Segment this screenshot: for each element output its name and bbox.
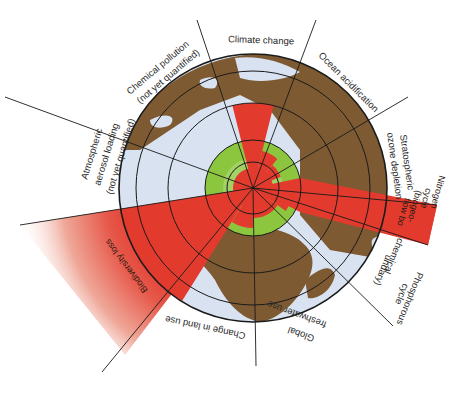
label-climate-change: Climate change (228, 33, 294, 46)
planetary-boundaries-diagram: Climate change Ocean acidification Strat… (0, 0, 459, 394)
label-freshwater-1: Global (286, 325, 316, 345)
